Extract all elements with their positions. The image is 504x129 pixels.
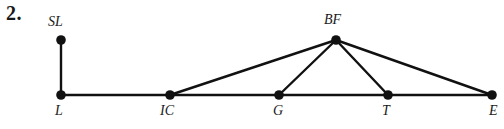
node-e[interactable] [487, 90, 497, 100]
node-bf[interactable] [331, 35, 341, 45]
edge-layer [61, 40, 492, 95]
node-sl[interactable] [56, 35, 66, 45]
node-label-e: E [489, 103, 498, 119]
node-label-t: T [382, 103, 390, 119]
diagram-canvas: 2. SLLICGBFTE [0, 0, 504, 129]
node-g[interactable] [274, 90, 284, 100]
node-label-g: G [273, 103, 283, 119]
node-l[interactable] [56, 90, 66, 100]
node-label-l: L [55, 103, 63, 119]
node-label-bf: BF [324, 12, 341, 28]
node-ic[interactable] [165, 90, 175, 100]
node-layer [56, 35, 497, 100]
edge-bf-e [336, 40, 492, 95]
node-label-ic: IC [160, 103, 174, 119]
node-label-sl: SL [48, 14, 63, 30]
edge-ic-bf [170, 40, 336, 95]
node-t[interactable] [383, 90, 393, 100]
graph-svg [0, 0, 504, 129]
